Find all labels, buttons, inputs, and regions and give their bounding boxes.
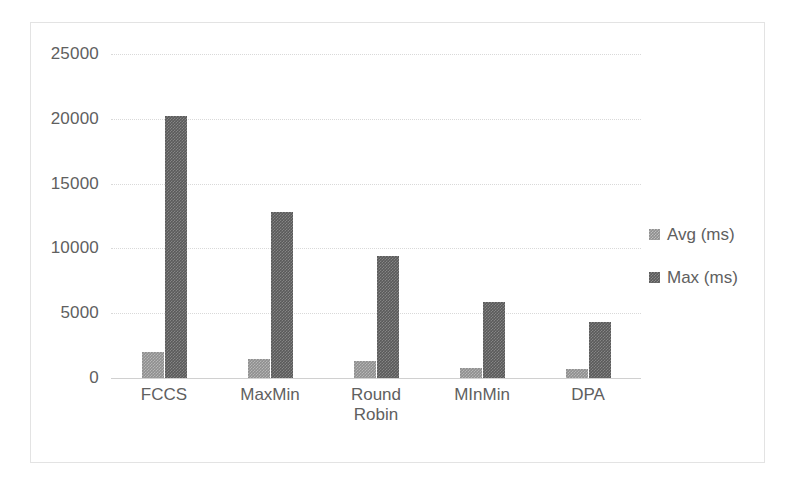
bar-group [217,54,323,378]
bar[interactable] [483,302,505,378]
bar-group [535,54,641,378]
chart-legend: Avg (ms)Max (ms) [649,213,738,299]
x-axis-tick-label: MInMin [429,385,535,424]
bar[interactable] [377,256,399,378]
legend-label: Avg (ms) [667,225,735,245]
y-axis-tick-label: 15000 [19,174,111,194]
bar[interactable] [566,369,588,378]
gridline [111,378,641,379]
bar[interactable] [589,322,611,378]
bar[interactable] [271,212,293,378]
bar-group [429,54,535,378]
bar-group [323,54,429,378]
bar[interactable] [165,116,187,378]
legend-swatch-icon [649,272,660,283]
bar[interactable] [354,361,376,378]
y-axis-tick-label: 25000 [19,44,111,64]
legend-entry[interactable]: Max (ms) [649,256,738,299]
bars-layer [111,54,641,378]
chart-frame: 0500010000150002000025000 FCCSMaxMinRoun… [30,22,765,463]
bar[interactable] [142,352,164,378]
bar-group [111,54,217,378]
plot-area: 0500010000150002000025000 [111,54,641,378]
bar[interactable] [248,359,270,378]
legend-label: Max (ms) [667,268,738,288]
y-axis-tick-label: 0 [19,368,111,388]
x-axis-tick-label: Round Robin [323,385,429,424]
x-axis-tick-label: MaxMin [217,385,323,424]
legend-entry[interactable]: Avg (ms) [649,213,738,256]
y-axis-tick-label: 10000 [19,238,111,258]
x-axis: FCCSMaxMinRound RobinMInMinDPA [111,385,641,424]
y-axis-tick-label: 20000 [19,109,111,129]
bar[interactable] [460,368,482,378]
y-axis-tick-label: 5000 [19,303,111,323]
x-axis-tick-label: DPA [535,385,641,424]
x-axis-tick-label: FCCS [111,385,217,424]
legend-swatch-icon [649,229,660,240]
